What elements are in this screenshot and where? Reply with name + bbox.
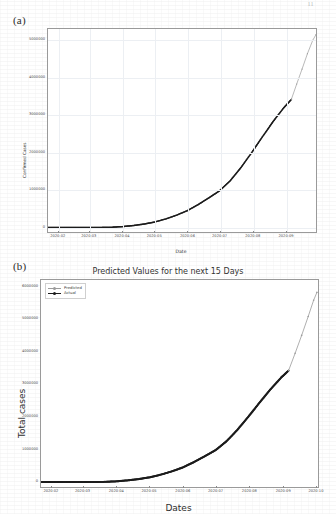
data-point [260, 139, 262, 141]
chart-confirmed-cases: Confirmed Cases Date 0100000020000003000… [0, 8, 336, 258]
data-point [246, 159, 248, 161]
data-point [262, 136, 264, 138]
y-axis-tick-label: 4000000 [29, 75, 45, 79]
gridline-horizontal [48, 190, 316, 191]
data-point [296, 83, 297, 84]
x-axis-tick-label: 2020-09 [276, 489, 291, 493]
data-point [243, 162, 245, 164]
data-point [235, 173, 237, 175]
data-point [240, 167, 242, 169]
legend-swatch-icon [48, 291, 61, 296]
x-axis-tick-label: 2020-02 [43, 489, 58, 493]
series-line-predicted [291, 35, 316, 100]
data-point [267, 128, 269, 130]
gridline-vertical [155, 29, 156, 232]
chart-title-b: Predicted Values for the next 15 Days [0, 267, 336, 276]
x-axis-label-a: Date [47, 249, 315, 254]
x-axis-tick-label: 2020-07 [208, 489, 223, 493]
y-axis-tick-label: 5000000 [22, 316, 38, 320]
data-point [271, 122, 273, 124]
data-point [242, 164, 244, 166]
y-axis-tick-label: 0 [36, 479, 38, 483]
data-point [270, 124, 272, 126]
data-point [234, 175, 236, 177]
data-point [232, 177, 234, 179]
x-axis-tick-label: 2020-03 [75, 489, 90, 493]
x-axis-tick-label: 2020-08 [242, 489, 257, 493]
x-axis-tick-label: 2020-06 [175, 489, 190, 493]
y-axis-tick-label: 3000000 [22, 381, 38, 385]
x-axis-tick-mark [249, 486, 250, 488]
x-axis-tick-label: 2020-02 [50, 234, 65, 238]
data-point [265, 132, 267, 134]
data-point [261, 138, 263, 140]
data-point [272, 121, 274, 123]
document-page: 11 (a) Confirmed Cases Date 010000002000… [0, 0, 336, 514]
y-axis-tick-label: 0 [43, 225, 45, 229]
gridline-vertical [221, 29, 222, 232]
x-axis-tick-label: 2020-04 [109, 489, 124, 493]
x-axis-tick-mark [220, 231, 221, 233]
y-axis-tick-label: 1000000 [29, 187, 45, 191]
data-point [231, 179, 233, 181]
x-axis-tick-label: 2020-05 [147, 234, 162, 238]
y-axis-tick-label: 5000000 [29, 37, 45, 41]
x-axis-tick-mark [58, 231, 59, 233]
data-point [257, 142, 259, 144]
x-axis-tick-mark [149, 486, 150, 488]
data-point [307, 53, 308, 54]
series-line-actual [48, 99, 291, 227]
data-point [248, 156, 250, 158]
data-point [263, 135, 265, 137]
figure-panel-a: (a) Confirmed Cases Date 010000002000000… [0, 8, 336, 258]
series-lines-b [41, 280, 318, 487]
data-point [279, 112, 281, 114]
data-point [255, 146, 257, 148]
x-axis-tick-mark [89, 231, 90, 233]
x-axis-tick-mark [187, 231, 188, 233]
x-axis-tick-mark [83, 486, 84, 488]
x-axis-tick-mark [51, 486, 52, 488]
x-axis-tick-label: 2020-08 [245, 234, 260, 238]
data-point [264, 133, 266, 135]
y-axis-tick-label: 3000000 [29, 112, 45, 116]
data-point [247, 158, 249, 160]
x-axis-tick-mark [283, 486, 284, 488]
data-point [239, 168, 241, 170]
x-axis-tick-mark [216, 486, 217, 488]
x-axis-tick-label: 2020-04 [115, 234, 130, 238]
x-axis-tick-label: 2020-10 [308, 489, 323, 493]
page-number: 11 [307, 1, 314, 7]
x-axis-tick-mark [253, 231, 254, 233]
data-point [269, 125, 271, 127]
data-point [280, 111, 282, 113]
gridline-vertical [188, 29, 189, 232]
gridline-vertical [123, 29, 124, 232]
gridline-horizontal [48, 153, 316, 154]
x-axis-tick-mark [316, 486, 317, 488]
series-line-predicted [289, 292, 317, 370]
data-point [313, 299, 315, 301]
data-point [266, 130, 268, 132]
data-point [241, 165, 243, 167]
data-point [233, 176, 235, 178]
plot-area-a [47, 28, 317, 233]
y-axis-tick-label: 1000000 [22, 447, 38, 451]
data-point [291, 99, 292, 100]
legend-item-actual[interactable]: Actual [48, 291, 82, 296]
gridline-horizontal [48, 115, 316, 116]
x-axis-tick-mark [183, 486, 184, 488]
data-point [229, 180, 231, 182]
y-axis-label-a: Confirmed Cases [22, 143, 27, 179]
x-axis-tick-mark [286, 231, 287, 233]
data-point [301, 68, 302, 69]
chart-legend-b: PredictedActual [45, 283, 86, 299]
data-point [238, 169, 240, 171]
data-point [276, 117, 278, 119]
data-point [288, 370, 290, 372]
gridline-horizontal [48, 228, 316, 229]
gridline-horizontal [48, 78, 316, 79]
data-point [281, 110, 283, 112]
data-point [294, 353, 296, 355]
data-point [301, 335, 303, 337]
